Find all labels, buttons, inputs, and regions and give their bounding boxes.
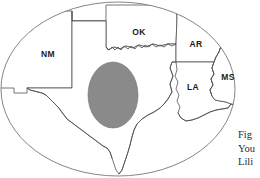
figure-container: NM OK AR LA MS Fig You Lili bbox=[0, 0, 260, 178]
state-outline-arkansas bbox=[176, 5, 221, 62]
us-south-central-map: NM OK AR LA MS bbox=[0, 0, 260, 178]
caption-line-1: Fig bbox=[238, 128, 260, 142]
state-outline-new-mexico bbox=[0, 11, 72, 93]
figure-caption: Fig You Lili bbox=[238, 128, 260, 169]
state-label-nm: NM bbox=[41, 49, 55, 59]
state-label-la: LA bbox=[187, 82, 199, 92]
study-area-highlight-ellipse bbox=[88, 62, 138, 128]
caption-line-2: You bbox=[238, 142, 260, 156]
state-label-ms: MS bbox=[221, 72, 234, 82]
state-label-ok: OK bbox=[132, 27, 146, 37]
state-label-ar: AR bbox=[190, 39, 203, 49]
caption-line-3: Lili bbox=[238, 155, 260, 169]
